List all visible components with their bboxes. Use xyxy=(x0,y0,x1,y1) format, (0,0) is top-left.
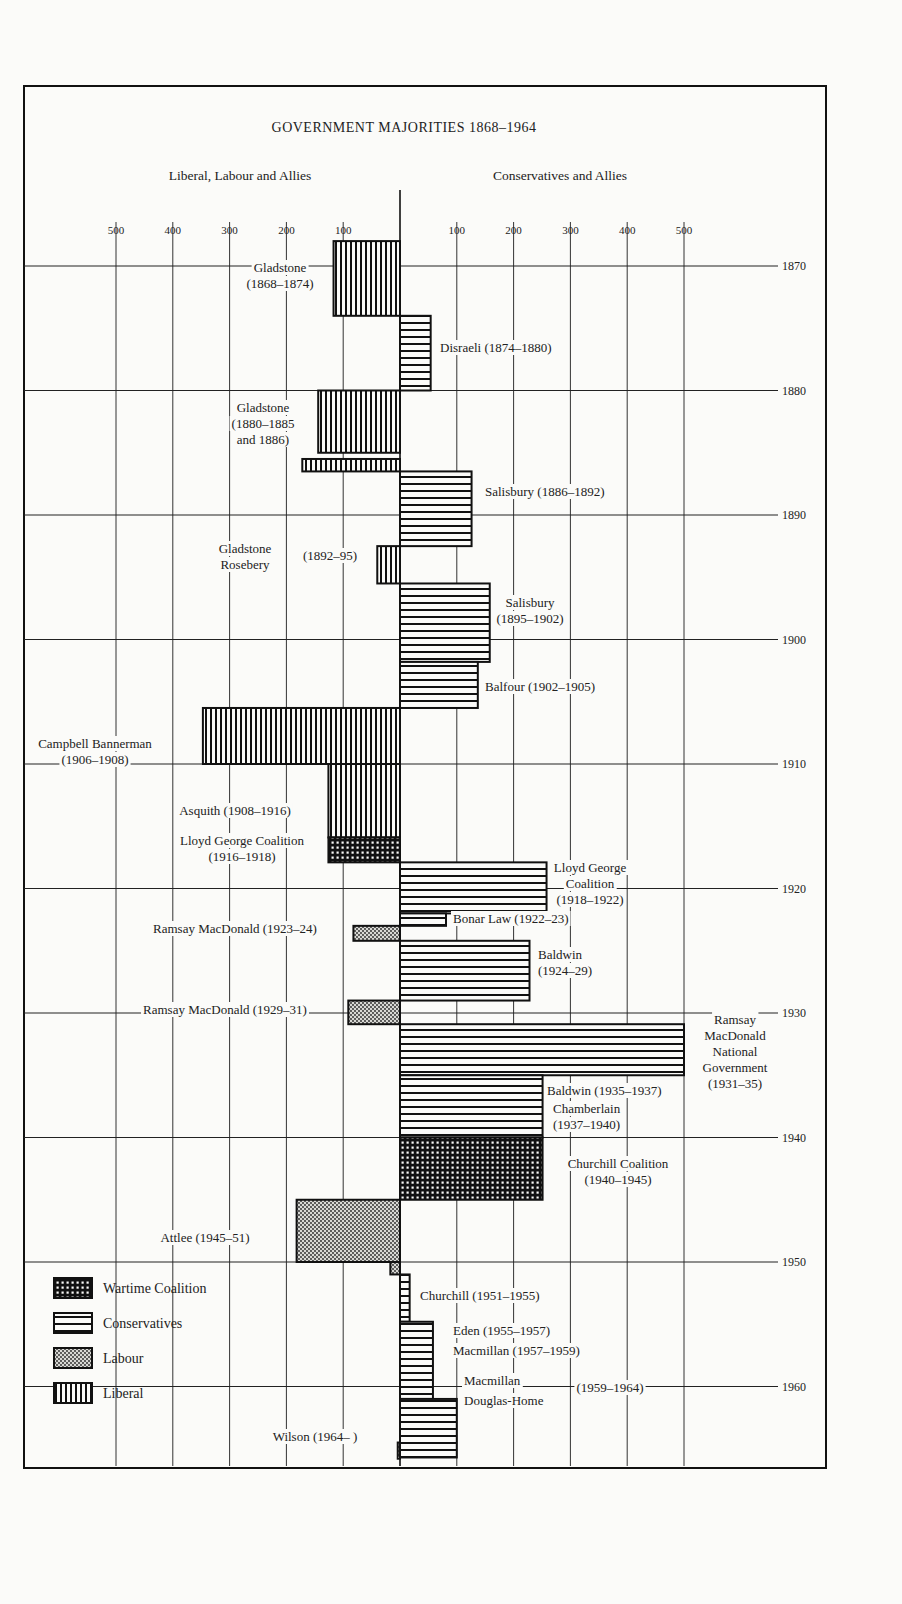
bar-23 xyxy=(400,1399,457,1458)
year-label-1910: 1910 xyxy=(782,757,806,771)
legend-label-liberal: Liberal xyxy=(103,1386,144,1401)
bar-0 xyxy=(334,241,400,316)
year-label-1880: 1880 xyxy=(782,384,806,398)
label-chamberlain: Chamberlain xyxy=(553,1101,621,1116)
bar-6 xyxy=(400,583,490,661)
bar-8 xyxy=(203,708,400,764)
year-label-1940: 1940 xyxy=(782,1131,806,1145)
year-label-1960: 1960 xyxy=(782,1380,806,1394)
legend-swatch-wartime xyxy=(54,1278,92,1298)
bar-2 xyxy=(318,391,400,453)
bar-7 xyxy=(400,662,478,708)
bar-20 xyxy=(390,1262,400,1274)
label-macdonald-1923: Ramsay MacDonald (1923–24) xyxy=(153,921,317,936)
bar-labels: Gladstone(1868–1874)Disraeli (1874–1880)… xyxy=(36,260,770,1444)
label-balfour: Balfour (1902–1905) xyxy=(485,679,595,694)
legend-label-labour: Labour xyxy=(103,1351,144,1366)
label-national-government: Ramsay xyxy=(714,1012,756,1027)
x-tick-left-100: 100 xyxy=(335,224,352,236)
bar-11 xyxy=(400,862,547,913)
bar-10 xyxy=(328,837,400,862)
bar-17 xyxy=(400,1075,543,1137)
x-tick-right-400: 400 xyxy=(619,224,636,236)
government-majorities-chart: GOVERNMENT MAJORITIES 1868–1964 Liberal,… xyxy=(0,0,902,1604)
label-salisbury-1895: Salisbury xyxy=(505,595,555,610)
legend-label-conservative: Conservatives xyxy=(103,1316,182,1331)
label-macmillan-1957: Macmillan (1957–1959) xyxy=(453,1343,580,1358)
bar-3 xyxy=(302,459,400,471)
x-tick-right-500: 500 xyxy=(676,224,693,236)
label-churchill-coalition: Churchill Coalition xyxy=(568,1156,669,1171)
x-tick-left-200: 200 xyxy=(278,224,295,236)
bar-13 xyxy=(353,926,400,941)
label-gladstone-rosebery: Gladstone xyxy=(219,541,272,556)
label-national-government: MacDonald xyxy=(704,1028,766,1043)
label-lloyd-george-coalition: (1918–1922) xyxy=(556,892,623,907)
bar-9 xyxy=(328,764,400,837)
x-tick-left-500: 500 xyxy=(108,224,125,236)
chart-title: GOVERNMENT MAJORITIES 1868–1964 xyxy=(272,120,537,135)
label-macdonald-1929: Ramsay MacDonald (1929–31) xyxy=(143,1002,307,1017)
label-gladstone-rosebery-years: (1892–95) xyxy=(303,548,357,563)
label-gladstone-1880: Gladstone xyxy=(237,400,290,415)
bar-21 xyxy=(400,1274,410,1321)
label-salisbury-1895: (1895–1902) xyxy=(496,611,563,626)
legend-label-wartime: Wartime Coalition xyxy=(103,1281,206,1296)
year-label-1920: 1920 xyxy=(782,882,806,896)
x-tick-left-400: 400 xyxy=(165,224,182,236)
bar-22 xyxy=(400,1322,433,1399)
label-macmillan-years: (1959–1964) xyxy=(576,1380,643,1395)
bar-4 xyxy=(400,471,472,546)
label-campbell-bannerman: Campbell Bannerman xyxy=(38,736,152,751)
label-gladstone-1880: and 1886) xyxy=(237,432,289,447)
label-gladstone-1880: (1880–1885 xyxy=(232,416,295,431)
year-label-1870: 1870 xyxy=(782,259,806,273)
bar-5 xyxy=(377,546,400,583)
label-churchill-coalition: (1940–1945) xyxy=(584,1172,651,1187)
label-baldwin-1924: Baldwin xyxy=(538,947,583,962)
bar-14 xyxy=(400,941,530,1001)
bar-24 xyxy=(398,1443,400,1459)
label-churchill-1951: Churchill (1951–1955) xyxy=(420,1288,540,1303)
bar-12 xyxy=(400,913,446,925)
x-tick-right-200: 200 xyxy=(505,224,522,236)
x-tick-left-300: 300 xyxy=(221,224,238,236)
label-baldwin-1935: Baldwin (1935–1937) xyxy=(547,1083,661,1098)
label-bonar-law: Bonar Law (1922–23) xyxy=(453,911,569,926)
label-baldwin-1924: (1924–29) xyxy=(538,963,592,978)
label-campbell-bannerman: (1906–1908) xyxy=(61,752,128,767)
label-salisbury-1886: Salisbury (1886–1892) xyxy=(485,484,605,499)
label-gladstone-1868: (1868–1874) xyxy=(246,276,313,291)
label-gladstone-1868: Gladstone xyxy=(254,260,307,275)
chart-frame xyxy=(24,86,826,1468)
bar-16 xyxy=(400,1024,684,1075)
bar-19 xyxy=(297,1200,400,1262)
year-label-1900: 1900 xyxy=(782,633,806,647)
bar-1 xyxy=(400,316,431,391)
label-national-government: Government xyxy=(703,1060,768,1075)
left-heading: Liberal, Labour and Allies xyxy=(169,168,311,183)
year-label-1930: 1930 xyxy=(782,1006,806,1020)
legend-swatch-labour xyxy=(54,1348,92,1368)
bar-18 xyxy=(400,1138,543,1200)
label-chamberlain: (1937–1940) xyxy=(553,1117,620,1132)
label-disraeli: Disraeli (1874–1880) xyxy=(440,340,552,355)
label-lloyd-george-coalition: Lloyd George xyxy=(554,860,627,875)
label-wilson: Wilson (1964– ) xyxy=(273,1429,358,1444)
label-lloyd-george-wartime: (1916–1918) xyxy=(208,849,275,864)
label-national-government: (1931–35) xyxy=(708,1076,762,1091)
label-gladstone-rosebery: Rosebery xyxy=(220,557,270,572)
label-attlee: Attlee (1945–51) xyxy=(160,1230,249,1245)
label-macmillan-douglas-home: Macmillan xyxy=(464,1373,521,1388)
bar-15 xyxy=(348,1001,400,1025)
x-tick-right-100: 100 xyxy=(449,224,466,236)
label-lloyd-george-wartime: Lloyd George Coalition xyxy=(180,833,304,848)
label-eden: Eden (1955–1957) xyxy=(453,1323,550,1338)
label-asquith: Asquith (1908–1916) xyxy=(179,803,291,818)
right-heading: Conservatives and Allies xyxy=(493,168,627,183)
legend-swatch-conservative xyxy=(54,1313,92,1333)
legend-swatch-liberal xyxy=(54,1383,92,1403)
legend: Wartime CoalitionConservativesLabourLibe… xyxy=(54,1278,206,1403)
year-label-1950: 1950 xyxy=(782,1255,806,1269)
year-label-1890: 1890 xyxy=(782,508,806,522)
